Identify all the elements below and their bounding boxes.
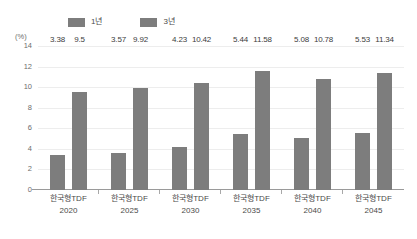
x-axis-label: 한국형TDF 2030 [160, 193, 221, 218]
bar-1year[interactable]: 3.57 [111, 46, 126, 190]
bar-value-label: 4.23 [172, 36, 187, 44]
x-axis-label: 한국형TDF 2040 [282, 193, 343, 218]
bar-rect [255, 71, 270, 190]
bar-rect [194, 83, 209, 190]
bar-rect [355, 133, 370, 190]
bar-value-label: 3.57 [111, 36, 126, 44]
bar-3year[interactable]: 11.58 [255, 46, 270, 190]
bar-1year[interactable]: 5.08 [294, 46, 309, 190]
bar-value-label: 5.44 [233, 36, 248, 44]
y-tick-label: 10 [24, 83, 32, 91]
x-axis-label-name: 한국형TDF [50, 194, 87, 203]
bar-chart: 1년 3년 (%) 14 12 10 8 6 4 2 [0, 0, 417, 239]
bar-1year[interactable]: 3.38 [50, 46, 65, 190]
x-axis-label-name: 한국형TDF [233, 194, 270, 203]
bar-rect [377, 73, 392, 190]
bar-value-label: 11.34 [375, 36, 393, 44]
y-tick-label: 14 [24, 42, 32, 50]
chart-legend: 1년 3년 [68, 15, 175, 29]
bar-rect [172, 147, 187, 191]
bar-group: 3.57 9.92 [99, 46, 160, 190]
bar-value-label: 5.08 [294, 36, 309, 44]
bar-rect [233, 134, 248, 190]
bar-groups: 3.38 9.5 3.57 9.92 [38, 46, 404, 190]
x-axis-label-year: 2040 [282, 205, 343, 217]
x-axis-label-year: 2045 [343, 205, 404, 217]
x-axis-label: 한국형TDF 2045 [343, 193, 404, 218]
bar-rect [111, 153, 126, 190]
legend-label-1year: 1년 [91, 18, 102, 26]
gridline-baseline: 0 [38, 190, 404, 191]
x-axis-label: 한국형TDF 2020 [38, 193, 99, 218]
x-axis-label-name: 한국형TDF [172, 194, 209, 203]
bar-group: 5.08 10.78 [282, 46, 343, 190]
x-axis-label-year: 2030 [160, 205, 221, 217]
legend-item-3year[interactable]: 3년 [140, 18, 174, 27]
x-axis-label-year: 2035 [221, 205, 282, 217]
bar-1year[interactable]: 5.44 [233, 46, 248, 190]
y-tick-label: 4 [28, 145, 32, 153]
bar-3year[interactable]: 9.5 [72, 46, 87, 190]
x-axis-label: 한국형TDF 2035 [221, 193, 282, 218]
bar-3year[interactable]: 10.78 [316, 46, 331, 190]
y-axis-unit-label: (%) [15, 33, 27, 41]
bar-1year[interactable]: 5.53 [355, 46, 370, 190]
x-axis-label-name: 한국형TDF [355, 194, 392, 203]
bar-3year[interactable]: 11.34 [377, 46, 392, 190]
bar-group: 4.23 10.42 [160, 46, 221, 190]
bar-3year[interactable]: 9.92 [133, 46, 148, 190]
bar-3year[interactable]: 10.42 [194, 46, 209, 190]
x-axis-label: 한국형TDF 2025 [99, 193, 160, 218]
bar-value-label: 10.78 [314, 36, 333, 44]
y-tick-label: 12 [24, 63, 32, 71]
bar-value-label: 9.92 [133, 36, 148, 44]
bar-1year[interactable]: 4.23 [172, 46, 187, 190]
plot-area: 14 12 10 8 6 4 2 0 3.38 [38, 46, 404, 190]
x-axis-label-year: 2025 [99, 205, 160, 217]
bar-rect [316, 79, 331, 190]
bar-value-label: 10.42 [192, 36, 211, 44]
x-axis-label-year: 2020 [38, 205, 99, 217]
bar-group: 3.38 9.5 [38, 46, 99, 190]
bar-value-label: 3.38 [50, 36, 65, 44]
legend-swatch-icon [68, 18, 85, 27]
bar-rect [294, 138, 309, 190]
bar-value-label: 5.53 [355, 36, 370, 44]
legend-swatch-icon [140, 18, 157, 27]
x-axis-label-name: 한국형TDF [111, 194, 148, 203]
bar-group: 5.44 11.58 [221, 46, 282, 190]
bar-rect [72, 92, 87, 190]
x-axis-label-name: 한국형TDF [294, 194, 331, 203]
bar-rect [50, 155, 65, 190]
bar-rect [133, 88, 148, 190]
y-tick-label: 8 [28, 104, 32, 112]
legend-item-1year[interactable]: 1년 [68, 18, 102, 27]
x-axis-labels: 한국형TDF 2020 한국형TDF 2025 한국형TDF 2030 한국형T… [38, 193, 404, 218]
bar-value-label: 11.58 [253, 36, 271, 44]
y-tick-label: 0 [28, 186, 32, 194]
legend-label-3year: 3년 [163, 18, 174, 26]
y-tick-label: 6 [28, 125, 32, 133]
bar-group: 5.53 11.34 [343, 46, 404, 190]
y-tick-label: 2 [28, 166, 32, 174]
bar-value-label: 9.5 [74, 36, 85, 44]
